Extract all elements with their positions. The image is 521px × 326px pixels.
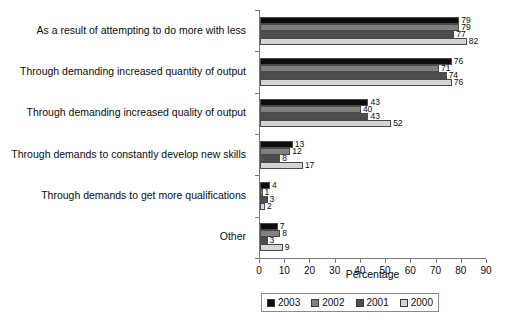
category-axis-labels: As a result of attempting to do more wit… xyxy=(0,10,252,258)
legend-label: 2000 xyxy=(411,298,433,308)
y-axis-line xyxy=(259,10,260,258)
bar-value-label: 2 xyxy=(267,202,272,211)
bar-group: 1312817 xyxy=(260,141,487,169)
bar xyxy=(260,72,447,79)
bar xyxy=(260,141,293,148)
x-axis-tick xyxy=(486,259,487,263)
bar xyxy=(260,223,278,230)
category-label: Through demands to constantly develop ne… xyxy=(11,149,246,160)
x-axis-title: Percentage xyxy=(259,268,486,280)
bar-group: 76717476 xyxy=(260,58,487,86)
bar-value-label: 4 xyxy=(272,181,277,190)
bar xyxy=(260,79,452,86)
category-label: As a result of attempting to do more wit… xyxy=(36,25,246,36)
legend-item: 2002 xyxy=(311,298,344,308)
y-axis-tick xyxy=(255,51,259,52)
plot-area: 0102030405060708090 79797782767174764340… xyxy=(259,10,486,258)
bar-group: 43404352 xyxy=(260,99,487,127)
bar xyxy=(260,244,283,251)
bar xyxy=(260,65,439,72)
bar-value-label: 76 xyxy=(454,78,463,87)
bar xyxy=(260,38,467,45)
bar xyxy=(260,203,265,210)
category-label: Other xyxy=(220,231,246,242)
x-axis-tick xyxy=(335,259,336,263)
bar xyxy=(260,31,454,38)
x-axis-tick xyxy=(284,259,285,263)
legend-label: 2003 xyxy=(278,298,300,308)
x-axis-tick xyxy=(436,259,437,263)
bar xyxy=(260,24,459,31)
bar-value-label: 9 xyxy=(285,243,290,252)
bar xyxy=(260,99,368,106)
y-axis-tick xyxy=(255,134,259,135)
legend-item: 2000 xyxy=(400,298,433,308)
bar xyxy=(260,58,452,65)
legend-item: 2003 xyxy=(267,298,300,308)
bar xyxy=(260,106,361,113)
bar xyxy=(260,17,459,24)
legend-swatch-icon xyxy=(267,299,275,307)
y-axis-tick xyxy=(255,10,259,11)
legend-label: 2002 xyxy=(322,298,344,308)
bar-value-label: 8 xyxy=(282,229,287,238)
bar xyxy=(260,237,268,244)
chart-legend: 2003200220012000 xyxy=(261,293,439,312)
bar-chart: As a result of attempting to do more wit… xyxy=(0,0,521,326)
bar xyxy=(260,113,368,120)
bar-group: 4132 xyxy=(260,182,487,210)
y-axis-tick xyxy=(255,93,259,94)
category-label: Through demands to get more qualificatio… xyxy=(41,190,246,201)
bar xyxy=(260,162,303,169)
x-axis-tick xyxy=(360,259,361,263)
bar-value-label: 17 xyxy=(305,161,314,170)
bar xyxy=(260,120,391,127)
y-axis-tick xyxy=(255,175,259,176)
category-label: Through demanding increased quality of o… xyxy=(27,107,246,118)
x-axis-tick xyxy=(461,259,462,263)
x-axis-line xyxy=(259,258,486,259)
x-axis-tick xyxy=(259,259,260,263)
category-label: Through demanding increased quantity of … xyxy=(20,66,246,77)
legend-swatch-icon xyxy=(311,299,319,307)
bar-value-label: 82 xyxy=(469,37,478,46)
bar xyxy=(260,155,280,162)
x-axis-tick xyxy=(410,259,411,263)
legend-label: 2001 xyxy=(367,298,389,308)
bar-value-label: 12 xyxy=(292,147,301,156)
bar-value-label: 76 xyxy=(454,57,463,66)
x-axis-tick xyxy=(309,259,310,263)
x-axis-tick xyxy=(385,259,386,263)
legend-swatch-icon xyxy=(400,299,408,307)
bar-group: 79797782 xyxy=(260,17,487,45)
bar-value-label: 52 xyxy=(393,119,402,128)
legend-swatch-icon xyxy=(356,299,364,307)
bar-group: 7839 xyxy=(260,223,487,251)
bar xyxy=(260,189,263,196)
legend-item: 2001 xyxy=(356,298,389,308)
y-axis-tick xyxy=(255,217,259,218)
